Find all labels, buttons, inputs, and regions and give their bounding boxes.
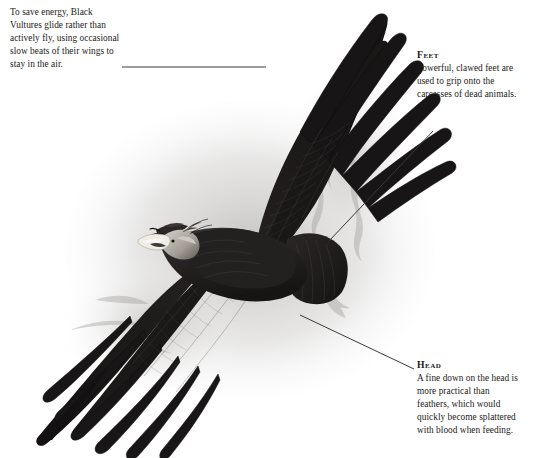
annotation-head-heading: Head xyxy=(417,358,535,371)
annotation-intro-line-2: Vultures glide rather than xyxy=(10,19,150,32)
annotation-intro-line-3: actively fly, using occasional xyxy=(10,32,150,45)
annotation-head-line-2: more practical than xyxy=(417,385,535,398)
annotation-feet-line-2: used to grip onto the xyxy=(417,75,535,88)
annotation-head-line-4: quickly become splattered xyxy=(417,411,535,424)
annotation-feet-heading: Feet xyxy=(417,48,535,61)
annotation-intro-line-1: To save energy, Black xyxy=(10,6,150,19)
annotation-intro-line-4: slow beats of their wings to xyxy=(10,45,150,58)
annotation-intro: To save energy, Black Vultures glide rat… xyxy=(10,6,150,71)
annotation-feet-line-3: carcasses of dead animals. xyxy=(417,88,535,101)
annotation-head: Head A fine down on the head is more pra… xyxy=(417,358,535,438)
illustration-figure: To save energy, Black Vultures glide rat… xyxy=(0,0,535,458)
annotation-head-line-5: with blood when feeding. xyxy=(417,424,535,437)
annotation-head-line-1: A fine down on the head is xyxy=(417,372,535,385)
annotation-intro-line-5: stay in the air. xyxy=(10,58,150,71)
annotation-head-line-3: feathers, which would xyxy=(417,398,535,411)
annotation-feet: Feet Powerful, clawed feet are used to g… xyxy=(417,48,535,101)
annotation-feet-line-1: Powerful, clawed feet are xyxy=(417,62,535,75)
